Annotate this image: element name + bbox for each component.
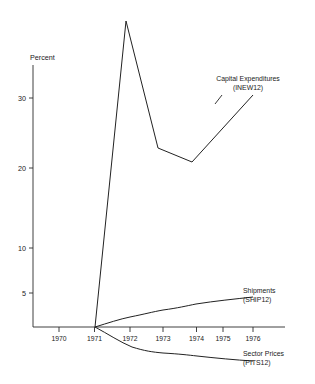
y-tick-label-10: 10 (18, 244, 26, 253)
capital-expenditures-leader-line (215, 95, 222, 104)
x-tick-label-1973: 1973 (155, 335, 170, 342)
x-tick-label-1970: 1970 (51, 335, 66, 342)
x-tick-label-1976: 1976 (245, 335, 260, 342)
x-tick-label-1975: 1975 (215, 335, 230, 342)
capital-expenditures-code: (INEW12) (233, 84, 263, 92)
y-tick-label-30: 30 (18, 94, 26, 103)
series-line-capital-expenditures (95, 21, 253, 327)
y-axis-title: Percent (30, 53, 55, 62)
x-tick-label-1971: 1971 (87, 335, 102, 342)
series-line-sector-prices (95, 327, 253, 361)
shipments-code: (SHIP12) (243, 296, 271, 304)
chart-container: Percent 30 20 10 5 1970 1971 1972 1973 1… (0, 0, 315, 384)
sector-prices-label: Sector Prices (243, 350, 285, 357)
shipments-label: Shipments (243, 287, 276, 295)
line-chart: Percent 30 20 10 5 1970 1971 1972 1973 1… (0, 0, 315, 384)
capital-expenditures-label: Capital Expenditures (216, 75, 280, 83)
x-tick-label-1974: 1974 (189, 335, 204, 342)
x-tick-label-1972: 1972 (122, 335, 137, 342)
series-line-shipments (95, 297, 253, 327)
y-tick-label-5: 5 (22, 289, 26, 298)
y-tick-label-20: 20 (18, 164, 26, 173)
sector-prices-code: (PITS12) (243, 359, 271, 367)
